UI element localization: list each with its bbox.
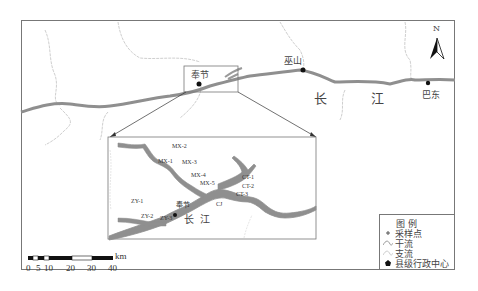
tributary-line xyxy=(118,22,200,62)
sample-label: MX-4 xyxy=(191,172,206,178)
tributary-line xyxy=(45,108,70,145)
tributary-line xyxy=(45,30,60,105)
tributary-line xyxy=(405,22,411,78)
inset-city-label: 奉节 xyxy=(176,199,190,209)
legend-item-county-center: 县级行政中心 xyxy=(383,258,449,268)
tributary-icon xyxy=(383,248,393,258)
sample-label: MX-1 xyxy=(158,158,173,164)
city-point-fengjie xyxy=(197,82,202,87)
tributary-line xyxy=(180,82,201,118)
scale-tick: 10 xyxy=(44,263,53,273)
scale-tick: 5 xyxy=(36,263,41,273)
north-label: N xyxy=(433,24,440,33)
sample-label: CT-1 xyxy=(242,174,254,180)
river-label-jiang: 江 xyxy=(371,88,384,107)
scale-tick: 0 xyxy=(26,263,31,273)
sample-label: CT-3 xyxy=(236,191,248,197)
sample-label: MX-2 xyxy=(172,143,187,149)
sample-label: MX-5 xyxy=(200,180,215,186)
city-point-badong xyxy=(426,81,430,85)
city-label-wushan: 巫山 xyxy=(284,54,302,67)
sample-label: ZY-1 xyxy=(131,198,143,204)
scale-bar-graphic xyxy=(28,256,113,260)
inset-city-point xyxy=(173,213,177,217)
sample-label: CJ xyxy=(216,201,222,207)
inset-river-label-chang: 长 xyxy=(184,211,194,226)
north-arrow-icon xyxy=(430,38,444,59)
scale-tick: 30 xyxy=(87,263,96,273)
county-center-icon xyxy=(383,258,393,268)
sample-point-icon xyxy=(383,228,393,238)
tributary-line xyxy=(100,112,108,140)
sample-label: MX-3 xyxy=(182,159,197,165)
sample-label: ZY-2 xyxy=(141,213,153,219)
sample-label: CT-2 xyxy=(242,183,254,189)
inset-river-label-jiang: 江 xyxy=(200,211,210,226)
scale-tick: 40 xyxy=(108,263,117,273)
leader-line-right xyxy=(238,92,316,137)
scale-tick: 20 xyxy=(66,263,75,273)
city-label-badong: 巴东 xyxy=(422,88,440,101)
city-label-fengjie: 奉节 xyxy=(191,68,209,81)
sample-label: ZY-3 xyxy=(160,215,172,221)
legend: 图 例 采样点 干流 支流 县级行政中心 xyxy=(379,214,455,270)
main-stream-icon xyxy=(383,238,393,248)
scale-unit: km xyxy=(115,251,127,261)
river-label-chang: 长 xyxy=(314,88,327,107)
city-point-wushan xyxy=(301,68,306,73)
tributary-line xyxy=(340,90,345,120)
